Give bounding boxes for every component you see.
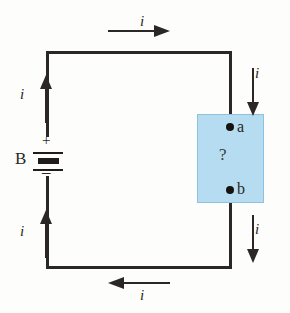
wire-bottom	[46, 266, 232, 269]
terminal-label-b: b	[237, 181, 245, 197]
current-arrow-top	[108, 24, 170, 38]
wire-top	[46, 51, 232, 54]
current-label-right-upper: i	[255, 66, 259, 81]
battery-negative-sign: –	[42, 163, 51, 180]
current-label-top: i	[140, 14, 144, 29]
current-label-left-upper: i	[20, 87, 24, 102]
current-arrow-left-lower	[39, 210, 53, 258]
battery-plate-long-upper	[33, 152, 63, 154]
terminal-label-a: a	[237, 119, 244, 135]
terminal-dot-a	[226, 123, 234, 131]
battery-positive-sign: +	[42, 133, 50, 148]
current-label-bottom: i	[140, 288, 144, 303]
terminal-dot-b	[226, 186, 234, 194]
current-label-right-lower: i	[255, 222, 259, 237]
battery-label: B	[15, 150, 26, 167]
circuit-diagram-canvas: ? a b + – B i i i i i i	[0, 0, 290, 313]
current-arrow-left-upper	[39, 75, 53, 123]
current-label-left-lower: i	[20, 224, 24, 239]
current-arrow-bottom	[108, 276, 170, 290]
question-mark-label: ?	[219, 145, 227, 165]
